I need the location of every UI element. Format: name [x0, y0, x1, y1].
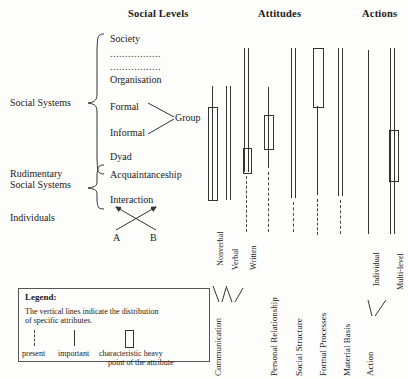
attribute-line-material-basis — [338, 48, 339, 196]
column-title-social-levels: Social Levels — [128, 8, 189, 19]
group-label-social-systems: Social Systems — [10, 97, 71, 108]
axis-label-formal-processes: Formal Processes — [319, 313, 328, 376]
axis-label-action: Action — [366, 352, 375, 377]
axis-label-individual: Individual — [372, 252, 381, 286]
group-label-individuals: Individuals — [10, 212, 55, 223]
axis-label-verbal: Verbal — [231, 249, 240, 270]
attribute-line-formal-processes — [317, 106, 318, 195]
legend-label-characteristic-line1: characteristic heavy — [99, 349, 163, 358]
communication-branch-icon — [210, 282, 252, 304]
axis-label-communication: Communication — [214, 318, 223, 376]
level-label-organisation: Organisation — [110, 74, 161, 85]
legend-label-present: present — [22, 349, 45, 358]
axis-label-written: Written — [249, 245, 258, 270]
attribute-line-social-structure — [291, 48, 292, 198]
attribute-box-multi-level — [389, 130, 399, 182]
axis-label-nonverbal: Nonverbal — [216, 231, 225, 266]
attribute-box-written — [243, 148, 252, 174]
axis-label-personal-relationship: Personal Relationship — [270, 297, 279, 376]
attribute-dash-material-basis — [340, 200, 341, 234]
attribute-line-social-structure-b — [295, 48, 296, 198]
actor-label-a: A — [113, 232, 120, 243]
level-label-dyad: Dyad — [110, 151, 132, 162]
level-label-dots-1: ................. — [110, 48, 161, 59]
actor-label-b: B — [150, 232, 157, 243]
attribute-line-verbal-b — [230, 86, 231, 200]
column-title-attitudes: Attitudes — [258, 8, 301, 19]
legend-symbol-present — [34, 330, 35, 346]
column-title-actions: Actions — [362, 8, 397, 19]
legend-symbol-important — [74, 330, 75, 346]
brace-social-systems — [84, 32, 106, 177]
attribute-dash-formal-processes — [317, 199, 318, 235]
attribute-box-nonverbal — [208, 107, 218, 201]
axis-label-material-basis: Material Basis — [343, 324, 352, 376]
group-label-rudimentary-line1: Rudimentary — [10, 168, 62, 179]
level-label-dots-2: ................. — [110, 61, 161, 72]
legend-label-important: important — [58, 349, 89, 358]
attribute-line-individual — [368, 50, 369, 234]
brace-rudimentary-social-systems — [84, 163, 106, 211]
attribute-dash-written — [246, 176, 247, 232]
legend-title: Legend: — [25, 292, 57, 302]
action-branch-icon — [366, 296, 398, 318]
attribute-line-verbal — [226, 86, 227, 200]
axis-label-social-structure: Social Structure — [295, 318, 304, 376]
level-label-formal: Formal — [110, 101, 139, 112]
attribute-dash-personal-relationship — [268, 172, 269, 232]
level-label-informal: Informal — [110, 127, 145, 138]
level-label-acquaintanceship: Acquaintanceship — [110, 169, 182, 180]
attribute-line-material-basis-b — [342, 48, 343, 196]
legend-symbol-characteristic — [125, 330, 134, 348]
group-label-rudimentary-line2: Social Systems — [10, 179, 71, 190]
group-bracket-label: Group — [175, 112, 201, 123]
legend-description-line2: of specific attributes. — [25, 316, 92, 326]
attribute-dash-social-structure — [293, 202, 294, 232]
legend-label-characteristic-line2: point of the attribute — [108, 358, 174, 367]
attribute-box-formal-processes — [313, 48, 324, 108]
axis-label-multi-level: Multi-level — [396, 253, 405, 290]
level-label-society: Society — [110, 33, 140, 44]
diagram-canvas: Social Levels Attitudes Actions Social S… — [0, 0, 408, 378]
attribute-box-personal-relationship — [264, 115, 274, 150]
